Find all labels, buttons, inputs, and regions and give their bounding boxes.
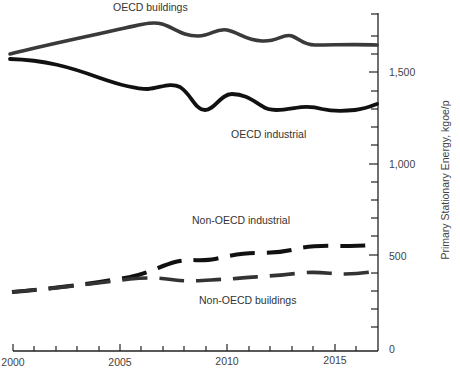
x-axis: 2000 2005 2010 2015 xyxy=(1,344,378,368)
y-axis: 0 500 1,000 1,500 Primary Stationary Ene… xyxy=(369,13,451,355)
chart-canvas: 0 500 1,000 1,500 Primary Stationary Ene… xyxy=(0,0,460,372)
x-tick-2005: 2005 xyxy=(108,356,132,368)
x-tick-2010: 2010 xyxy=(215,355,239,367)
series-oecd-buildings xyxy=(10,23,377,54)
y-axis-label: Primary Stationary Energy, kgoe/p xyxy=(439,100,451,259)
y-tick-500: 500 xyxy=(389,250,407,262)
series-oecd-industrial xyxy=(10,59,377,111)
label-oecd-industrial: OECD industrial xyxy=(231,128,306,140)
x-tick-2015: 2015 xyxy=(323,354,347,366)
series-non-oecd-buildings xyxy=(12,271,377,292)
x-tick-2000: 2000 xyxy=(1,356,25,368)
label-oecd-buildings: OECD buildings xyxy=(113,1,188,13)
y-tick-1000: 1,000 xyxy=(389,158,415,170)
label-non-oecd-buildings: Non-OECD buildings xyxy=(199,294,296,306)
label-non-oecd-industrial: Non-OECD industrial xyxy=(192,214,290,226)
y-tick-1500: 1,500 xyxy=(389,66,415,78)
y-tick-0: 0 xyxy=(389,343,395,355)
